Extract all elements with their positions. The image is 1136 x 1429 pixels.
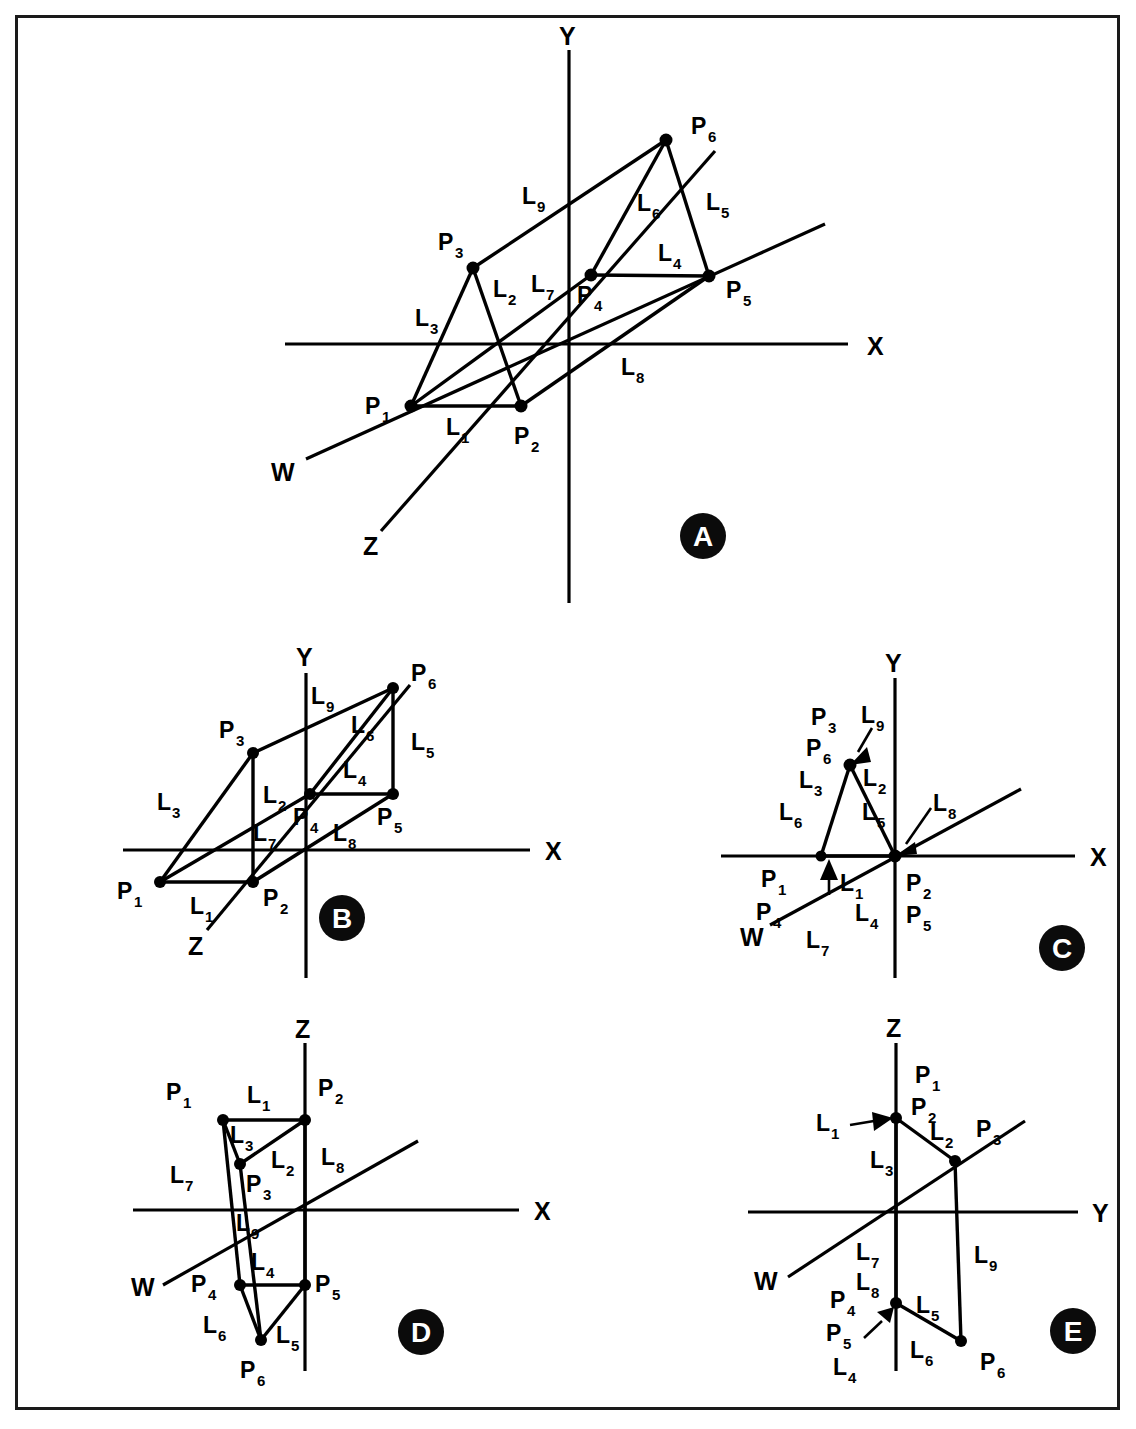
svg-text:3: 3 — [455, 244, 463, 261]
svg-text:P: P — [726, 277, 741, 303]
svg-text:P: P — [318, 1075, 333, 1101]
panel-e-badge: E — [1050, 1308, 1096, 1354]
svg-text:8: 8 — [336, 1159, 344, 1176]
panel-b-linelabel-l3: L 3 — [157, 789, 180, 821]
svg-text:6: 6 — [652, 205, 660, 222]
panel-c-label-w: W — [740, 923, 764, 951]
svg-text:L: L — [276, 1322, 290, 1348]
panel-d-vertex-p2 — [299, 1114, 311, 1126]
svg-text:P: P — [980, 1349, 995, 1375]
panel-b-vertex-p5 — [387, 788, 399, 800]
panel-b-ptlabel-p6: P 6 — [411, 660, 436, 692]
panel-a-axis-z — [381, 151, 715, 531]
panel-e-ptlabel-p4: P 4 — [830, 1287, 856, 1319]
panel-a-vertex-p2 — [515, 400, 528, 413]
panel-e-linelabel-l1: L 1 — [816, 1110, 839, 1142]
panel-b-label-y: Y — [296, 643, 313, 671]
svg-text:P: P — [365, 393, 380, 419]
svg-text:L: L — [870, 1147, 884, 1173]
panel-b-ptlabel-p5: P 5 — [377, 804, 402, 836]
svg-text:2: 2 — [923, 885, 931, 902]
svg-text:L: L — [415, 305, 429, 331]
svg-text:5: 5 — [923, 917, 931, 934]
svg-text:L: L — [531, 271, 545, 297]
svg-text:4: 4 — [870, 915, 879, 932]
panel-a-label-w: W — [271, 458, 295, 486]
svg-text:P: P — [315, 1271, 330, 1297]
panel-b-ptlabel-p1: P 1 — [117, 878, 142, 910]
panel-b-linelabel-l4: L 4 — [343, 757, 367, 789]
panel-e-leader-l4 — [864, 1307, 894, 1338]
panel-a-label-z: Z — [363, 532, 378, 560]
panel-c-ptlabel-p2: P 2 — [906, 870, 931, 902]
panel-b-vertex-p6 — [387, 682, 399, 694]
panel-d-ptlabel-p2: P 2 — [318, 1075, 343, 1107]
svg-text:L: L — [493, 276, 507, 302]
panel-a-linelabel-l9: L 9 — [522, 183, 545, 215]
panel-c-linelabel-l2: L 2 — [863, 765, 886, 797]
panel-a-ptlabel-p5: P 5 — [726, 277, 751, 309]
svg-text:1: 1 — [461, 429, 469, 446]
svg-text:8: 8 — [948, 805, 956, 822]
svg-text:L: L — [621, 354, 635, 380]
panel-b-linelabel-l8: L 8 — [333, 820, 356, 852]
svg-text:7: 7 — [268, 835, 276, 852]
panel-e-linelabel-l4: L 4 — [833, 1354, 857, 1386]
figure-root: X Y W Z P 1 P 2 P 3 P 4 P 5 — [0, 0, 1136, 1429]
panel-b-badge-letter: B — [332, 903, 352, 934]
svg-text:P: P — [911, 1094, 926, 1120]
panel-c-linelabel-l7: L 7 — [806, 927, 829, 959]
svg-text:2: 2 — [531, 438, 539, 455]
panel-d-linelabel-l8: L 8 — [321, 1144, 344, 1176]
svg-text:L: L — [271, 1147, 285, 1173]
svg-text:1: 1 — [205, 908, 213, 925]
panel-b-label-z: Z — [188, 932, 203, 960]
svg-text:4: 4 — [773, 914, 782, 931]
svg-text:P: P — [377, 804, 392, 830]
svg-text:L: L — [236, 1210, 250, 1236]
panel-e-badge-letter: E — [1064, 1316, 1083, 1347]
panel-d-badge: D — [398, 1309, 444, 1355]
panel-d-vertex-p6 — [255, 1334, 267, 1346]
svg-text:P: P — [691, 113, 706, 139]
panel-e-ptlabel-p1: P 1 — [915, 1062, 940, 1094]
panel-b-linelabel-l2: L 2 — [263, 782, 286, 814]
panel-e-axis-w — [788, 1121, 1025, 1277]
svg-text:P: P — [577, 282, 592, 308]
panel-c-linelabel-l5: L 5 — [862, 799, 885, 831]
svg-text:L: L — [343, 757, 357, 783]
svg-text:P: P — [191, 1271, 206, 1297]
panel-d-label-w: W — [131, 1273, 155, 1301]
svg-text:L: L — [779, 799, 793, 825]
svg-text:4: 4 — [847, 1302, 856, 1319]
svg-text:L: L — [263, 782, 277, 808]
svg-text:4: 4 — [310, 819, 319, 836]
svg-text:4: 4 — [266, 1264, 275, 1281]
svg-text:6: 6 — [925, 1352, 933, 1369]
svg-text:L: L — [522, 183, 536, 209]
panel-c-badge-letter: C — [1052, 933, 1072, 964]
panel-d-linelabel-l2: L 2 — [271, 1147, 294, 1179]
svg-text:2: 2 — [280, 900, 288, 917]
svg-text:L: L — [816, 1110, 830, 1136]
svg-text:P: P — [906, 870, 921, 896]
svg-text:2: 2 — [286, 1162, 294, 1179]
svg-text:L: L — [862, 799, 876, 825]
svg-text:7: 7 — [871, 1254, 879, 1271]
panel-d-vertex-p1 — [217, 1114, 229, 1126]
panel-d-ptlabel-p1: P 1 — [166, 1079, 191, 1111]
panel-e-linelabel-l6: L 6 — [910, 1337, 933, 1369]
svg-text:3: 3 — [263, 1186, 271, 1203]
panel-e-vertex-p3 — [949, 1155, 961, 1167]
svg-text:L: L — [203, 1312, 217, 1338]
svg-text:5: 5 — [426, 744, 434, 761]
svg-text:L: L — [230, 1122, 244, 1148]
svg-text:2: 2 — [945, 1134, 953, 1151]
svg-text:L: L — [706, 189, 720, 215]
svg-text:L: L — [251, 1249, 265, 1275]
svg-text:P: P — [263, 885, 278, 911]
svg-text:L: L — [411, 729, 425, 755]
panel-c-linelabel-l8: L 8 — [933, 790, 956, 822]
svg-text:6: 6 — [823, 750, 831, 767]
svg-text:L: L — [351, 712, 365, 738]
